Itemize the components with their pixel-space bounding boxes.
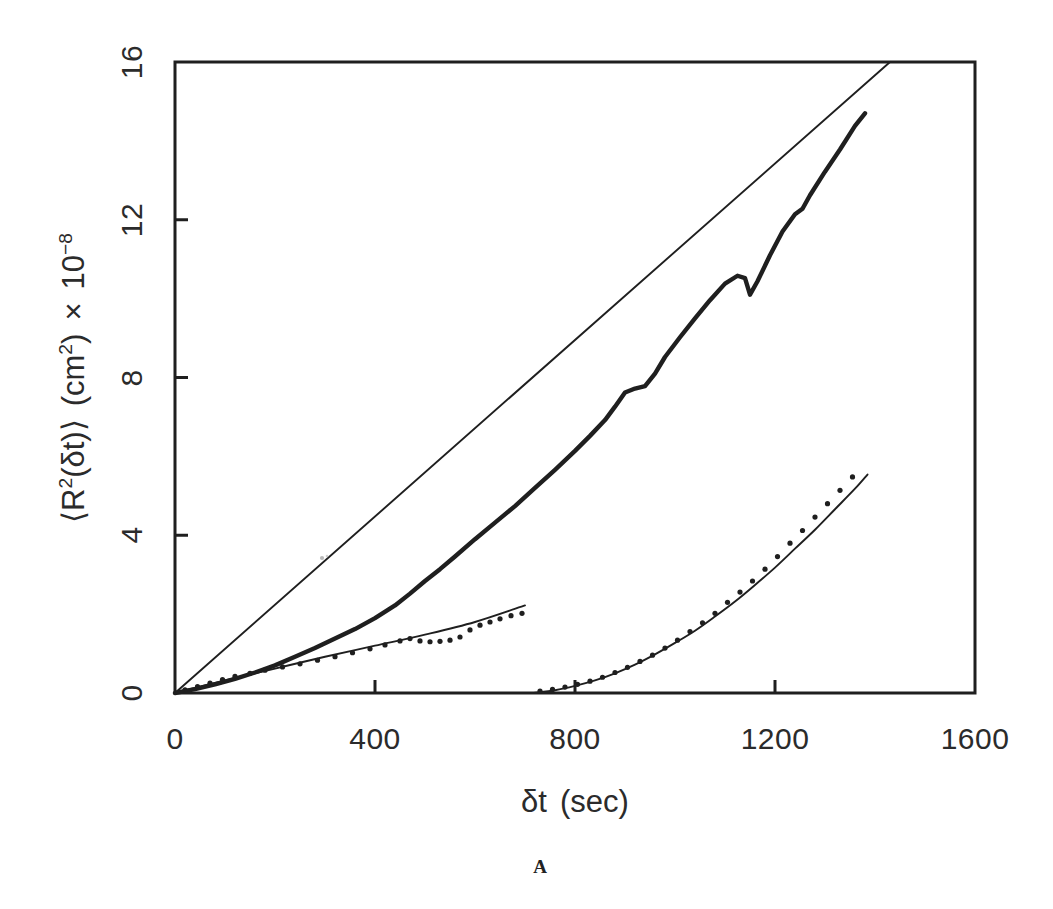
data-point — [812, 515, 817, 520]
y-axis-unit-superscript: 2 — [55, 344, 76, 355]
series-upper-experimental-trace — [175, 113, 865, 693]
y-axis-unit-open: (cm — [56, 355, 91, 407]
y-tick-label-12: 12 — [115, 203, 149, 237]
data-point — [417, 638, 422, 643]
axes-frame — [175, 62, 975, 693]
y-axis-r-superscript: 2 — [55, 478, 76, 489]
data-point — [477, 623, 482, 628]
data-point — [750, 578, 755, 583]
x-axis-unit: (sec) — [560, 784, 629, 819]
panel-caption-label: A — [533, 856, 547, 878]
x-tick-label-1600: 1600 — [941, 722, 1010, 756]
data-point — [519, 611, 524, 616]
series-middle-fit-line — [175, 605, 525, 693]
y-tick-label-0: 0 — [115, 684, 149, 701]
y-tick-label-16: 16 — [115, 45, 149, 79]
y-tick-label-4: 4 — [115, 526, 149, 543]
y-axis-mantissa: 10 — [56, 255, 91, 289]
data-point — [457, 634, 462, 639]
data-point — [837, 488, 842, 493]
series-upper-fit-line — [175, 62, 890, 693]
series-lower-right-dotted-data — [537, 474, 855, 693]
y-axis-times-symbol: × — [56, 303, 91, 321]
y-tick-label-8: 8 — [115, 369, 149, 386]
plot-canvas — [0, 0, 1053, 909]
data-point — [725, 600, 730, 605]
data-point — [427, 639, 432, 644]
data-series-group — [175, 62, 890, 694]
data-point — [437, 639, 442, 644]
data-point — [775, 554, 780, 559]
y-axis-title: ⟨R2(δt)⟩(cm2)×10−8 — [55, 233, 92, 523]
x-tick-label-400: 400 — [349, 722, 401, 756]
y-axis-unit-close: ) — [56, 334, 91, 344]
series-lower-right-fit-line — [534, 475, 868, 693]
figure-root: 0 400 800 1200 1600 0 4 8 12 16 δt(sec) … — [0, 0, 1053, 909]
data-point — [787, 541, 792, 546]
y-axis-arg: (δt) — [56, 431, 91, 478]
data-point — [737, 589, 742, 594]
y-axis-close-angle: ⟩ — [56, 419, 91, 431]
data-point — [487, 619, 492, 624]
data-point — [467, 627, 472, 632]
data-point — [497, 616, 502, 621]
y-axis-open-angle: ⟨R — [56, 489, 91, 523]
data-point — [508, 613, 513, 618]
x-axis-title: δt(sec) — [521, 784, 629, 820]
y-axis-exponent: −8 — [55, 233, 76, 255]
data-point — [447, 638, 452, 643]
data-point — [800, 528, 805, 533]
x-tick-label-0: 0 — [166, 722, 183, 756]
data-point — [825, 501, 830, 506]
data-point — [850, 474, 855, 479]
data-point — [762, 567, 767, 572]
x-tick-label-1200: 1200 — [741, 722, 810, 756]
x-tick-label-800: 800 — [549, 722, 601, 756]
plot-frame — [175, 62, 975, 693]
x-axis-symbol: δt — [521, 784, 547, 819]
